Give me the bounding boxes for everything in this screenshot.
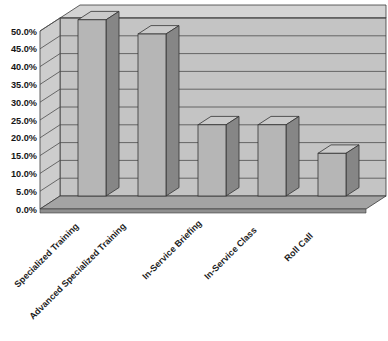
bar-1-front — [78, 20, 106, 196]
x-tick-label-advanced-specialized-training: Advanced Specialized Training — [27, 221, 127, 321]
bar-3-side — [226, 116, 239, 196]
floor-surface — [40, 196, 386, 209]
bar-5-front — [318, 153, 346, 196]
y-axis-tick-labels: 50.0% 45.0% 40.0% 35.0% 30.0% 25.0% 20.0… — [11, 27, 37, 215]
bar-5-side — [346, 145, 359, 196]
bar-roll-call[interactable] — [318, 145, 359, 196]
y-tick-label-4: 30.0% — [11, 98, 37, 108]
x-axis-category-labels: Specialized Training Advanced Specialize… — [12, 218, 315, 321]
bar-4-front — [258, 125, 286, 196]
bar-chart-3d: 50.0% 45.0% 40.0% 35.0% 30.0% 25.0% 20.0… — [0, 0, 388, 341]
y-tick-label-6: 20.0% — [11, 133, 37, 143]
y-tick-label-8: 10.0% — [11, 169, 37, 179]
y-tick-label-9: 5.0% — [16, 187, 37, 197]
y-tick-label-2: 40.0% — [11, 62, 37, 72]
y-tick-label-1: 45.0% — [11, 44, 37, 54]
chart-figure: 50.0% 45.0% 40.0% 35.0% 30.0% 25.0% 20.0… — [0, 0, 388, 341]
floor-front-edge — [40, 209, 366, 213]
y-tick-label-0: 50.0% — [11, 27, 37, 37]
y-tick-label-7: 15.0% — [11, 151, 37, 161]
bar-4-side — [286, 116, 299, 196]
bar-in-service-briefing[interactable] — [198, 116, 239, 196]
x-tick-label-in-service-class: In-Service Class — [202, 225, 258, 281]
bar-specialized-training[interactable] — [78, 11, 119, 196]
bar-3-front — [198, 125, 226, 196]
y-tick-label-10: 0.0% — [16, 205, 37, 215]
bar-1-side — [106, 11, 119, 196]
bar-in-service-class[interactable] — [258, 116, 299, 196]
x-tick-label-roll-call: Roll Call — [282, 231, 315, 264]
y-tick-label-5: 25.0% — [11, 116, 37, 126]
bar-2-side — [166, 26, 179, 196]
bar-advanced-specialized-training[interactable] — [138, 26, 179, 196]
bar-2-front — [138, 34, 166, 196]
x-tick-label-in-service-briefing: In-Service Briefing — [140, 218, 203, 281]
y-tick-label-3: 35.0% — [11, 80, 37, 90]
